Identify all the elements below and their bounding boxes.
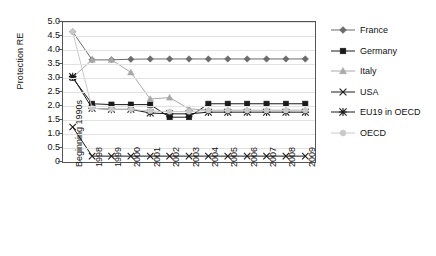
y-axis-tick-label: 3.0: [8, 73, 60, 82]
x-axis-tick-label: 2003: [192, 147, 201, 167]
x-axis-tick-label: 1998: [95, 147, 104, 167]
x-axis-tick-label: 1999: [114, 147, 123, 167]
data-point: [244, 56, 250, 62]
data-point: [69, 73, 77, 81]
data-point: [70, 29, 75, 34]
y-axis-tick-labels: 5.04.54.03.53.02.52.01.51.00.50: [0, 0, 60, 163]
data-point: [225, 108, 230, 113]
y-axis-tick-label: 4.0: [8, 45, 60, 54]
gridline: [63, 134, 315, 135]
gridline: [63, 120, 315, 121]
gridline: [63, 92, 315, 93]
legend-item-italy[interactable]: Italy: [330, 61, 436, 82]
gridline: [63, 50, 315, 51]
square-marker-icon: [330, 44, 356, 58]
data-point: [244, 108, 249, 113]
x-axis-tick-label: Beginning 1990s: [75, 100, 84, 167]
data-point: [206, 108, 211, 113]
gridline: [63, 106, 315, 107]
chart-figure: Protection RE 5.04.54.03.53.02.52.01.51.…: [0, 0, 436, 256]
series-oecd: [70, 29, 308, 114]
gridline: [63, 64, 315, 65]
y-axis-tick-label: 4.5: [8, 31, 60, 40]
data-point: [128, 69, 134, 75]
x-axis-tick-labels: Beginning 1990s1998199920002001200220032…: [62, 167, 322, 253]
x-axis-tick-label: 2005: [230, 147, 239, 167]
data-point: [205, 56, 211, 62]
y-axis-tick-label: 2.5: [8, 87, 60, 96]
data-point: [303, 108, 308, 113]
chart-legend: FranceGermanyItalyUSAEU19 in OECDOECD: [330, 20, 436, 143]
legend-label: Germany: [356, 46, 397, 56]
legend-label: France: [356, 25, 388, 35]
data-point: [166, 94, 172, 100]
legend-label: EU19 in OECD: [356, 107, 421, 117]
gridline: [63, 36, 315, 37]
legend-item-oecd[interactable]: OECD: [330, 123, 436, 144]
gridline: [63, 78, 315, 79]
data-point: [263, 56, 269, 62]
cross-marker-icon: [330, 85, 356, 99]
legend-item-germany[interactable]: Germany: [330, 41, 436, 62]
diamond-marker-icon: [330, 23, 356, 37]
data-point: [302, 56, 308, 62]
x-axis-tick-label: 2001: [153, 147, 162, 167]
data-point: [148, 108, 153, 113]
legend-label: Italy: [356, 66, 377, 76]
x-axis-tick-label: 2004: [211, 147, 220, 167]
series-line: [73, 60, 306, 110]
data-point: [147, 56, 153, 62]
series-france: [69, 29, 308, 63]
data-point: [186, 56, 192, 62]
data-point: [283, 56, 289, 62]
y-axis-tick-label: 0: [8, 157, 60, 166]
x-axis-tick-label: 2006: [250, 147, 259, 167]
legend-label: USA: [356, 87, 379, 97]
y-axis-tick-label: 3.5: [8, 59, 60, 68]
y-axis-tick-label: 0.5: [8, 143, 60, 152]
data-point: [225, 56, 231, 62]
y-axis-tick-label: 1.0: [8, 129, 60, 138]
data-point: [167, 109, 172, 114]
data-point: [283, 108, 288, 113]
x-axis-tick-label: 2000: [133, 147, 142, 167]
legend-label: OECD: [356, 128, 386, 138]
gridline: [63, 22, 315, 23]
legend-item-france[interactable]: France: [330, 20, 436, 41]
asterisk-marker-icon: [330, 105, 356, 119]
triangle-marker-icon: [330, 64, 356, 78]
data-point: [186, 109, 191, 114]
x-axis-tick-label: 2002: [172, 147, 181, 167]
circle-marker-icon: [330, 126, 356, 140]
plot-area: [62, 21, 316, 163]
legend-item-eu19-in-oecd[interactable]: EU19 in OECD: [330, 102, 436, 123]
x-axis-tick-label: 2009: [308, 147, 317, 167]
y-axis-tick-label: 5.0: [8, 17, 60, 26]
data-point: [109, 107, 114, 112]
series-line: [73, 32, 306, 112]
data-point: [264, 108, 269, 113]
legend-item-usa[interactable]: USA: [330, 82, 436, 103]
x-axis-tick-label: 2007: [269, 147, 278, 167]
data-point: [128, 56, 134, 62]
data-point: [166, 56, 172, 62]
data-point: [128, 107, 133, 112]
x-axis-tick-label: 2008: [288, 147, 297, 167]
y-axis-tick-label: 1.5: [8, 115, 60, 124]
y-axis-tick-label: 2.0: [8, 101, 60, 110]
